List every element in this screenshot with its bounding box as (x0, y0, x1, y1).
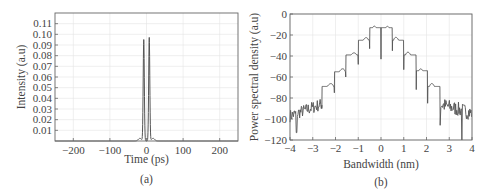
y-tick-label: 0.04 (33, 92, 53, 104)
y-tick-label: 0 (282, 8, 288, 20)
y-tick-label: −40 (270, 50, 288, 62)
x-tick-label: 4 (469, 142, 475, 154)
x-tick-label: 200 (211, 144, 228, 156)
y-tick-label: −100 (264, 113, 287, 125)
grid (55, 13, 238, 141)
y-tick-label: 0.03 (33, 103, 53, 115)
y-axis-label: Intensity (a.u) (15, 45, 28, 110)
y-tick-label: −80 (270, 92, 288, 104)
y-tick-label: −120 (264, 134, 287, 146)
y-tick-label: 0.05 (33, 81, 53, 93)
x-axis-label: Bandwidth (nm) (343, 158, 419, 171)
y-tick-label: 0.08 (33, 49, 53, 61)
y-tick-label: 0.07 (33, 60, 53, 72)
x-tick-label: −2 (330, 142, 342, 154)
figure: −200−10001002000.010.020.030.040.050.060… (0, 0, 490, 195)
x-tick-label: 100 (175, 144, 192, 156)
y-tick-label: 0.02 (33, 113, 52, 125)
x-tick-label: −1 (352, 142, 364, 154)
y-tick-label: 0.09 (33, 39, 53, 51)
y-axis-label: Power spectral density (a.u) (248, 13, 261, 142)
x-tick-label: 3 (447, 142, 453, 154)
panel-a: −200−10001002000.010.020.030.040.050.060… (15, 13, 238, 186)
x-tick-label: 2 (424, 142, 430, 154)
x-tick-label: 1 (401, 142, 407, 154)
y-tick-label: 0.01 (33, 124, 52, 136)
y-tick-label: 0.10 (33, 28, 53, 40)
y-tick-label: 0.06 (33, 71, 53, 83)
x-tick-label: −200 (62, 144, 85, 156)
x-axis-label: Time (ps) (124, 153, 169, 166)
panel-b: −4−3−2−1012340−20−40−60−80−100−120Bandwi… (248, 8, 475, 190)
y-tick-label: −60 (270, 71, 288, 83)
panel-caption: (a) (140, 173, 153, 186)
panel-caption: (b) (374, 176, 388, 189)
x-tick-label: −3 (307, 142, 319, 154)
x-tick-label: 0 (378, 142, 384, 154)
x-tick-label: −100 (99, 144, 122, 156)
y-tick-label: −20 (270, 29, 288, 41)
y-tick-label: 0.11 (33, 17, 52, 29)
